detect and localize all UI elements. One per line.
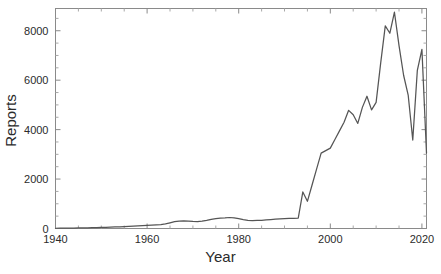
x-tick-label: 2020 bbox=[410, 233, 434, 245]
line-chart-plot: 19401960198020002020 02000400060008000 bbox=[0, 0, 441, 274]
x-tick-label: 1960 bbox=[135, 233, 159, 245]
data-line-reports bbox=[56, 12, 427, 228]
x-axis-title-text: Year bbox=[205, 248, 235, 265]
x-axis-title: Year bbox=[0, 248, 441, 265]
chart-container: Reports Year 19401960198020002020 020004… bbox=[0, 0, 441, 274]
y-tick-label: 4000 bbox=[24, 124, 48, 136]
y-axis-title-text: Reports bbox=[2, 94, 19, 147]
y-axis-title: Reports bbox=[0, 0, 20, 240]
x-axis-ticks bbox=[56, 9, 422, 229]
x-tick-label: 2000 bbox=[318, 233, 342, 245]
y-tick-label: 0 bbox=[42, 223, 48, 235]
y-axis-ticks bbox=[56, 18, 427, 228]
plot-frame bbox=[56, 9, 427, 229]
y-tick-label: 8000 bbox=[24, 25, 48, 37]
y-tick-label: 6000 bbox=[24, 74, 48, 86]
data-series-group bbox=[56, 12, 427, 228]
x-tick-label: 1980 bbox=[226, 233, 250, 245]
y-tick-label: 2000 bbox=[24, 173, 48, 185]
x-axis-tick-labels: 19401960198020002020 bbox=[43, 233, 434, 245]
y-axis-tick-labels: 02000400060008000 bbox=[24, 25, 48, 235]
